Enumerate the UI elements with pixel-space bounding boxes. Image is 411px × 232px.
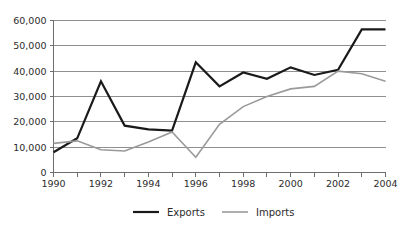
x-axis-label-1994: 1994 bbox=[136, 178, 160, 189]
x-axis-label-2004: 2004 bbox=[373, 178, 397, 189]
y-axis-label-20000: 20,000 bbox=[13, 116, 46, 127]
line-chart: 010,00020,00030,00040,00050,00060,000 19… bbox=[0, 0, 411, 232]
x-axis-label-1992: 1992 bbox=[89, 178, 113, 189]
y-axis-label-40000: 40,000 bbox=[13, 66, 46, 77]
x-axis-label-2000: 2000 bbox=[279, 178, 303, 189]
y-axis-label-60000: 60,000 bbox=[13, 15, 46, 26]
chart-canvas: 010,00020,00030,00040,00050,00060,000 19… bbox=[0, 0, 411, 232]
legend-label-exports: Exports bbox=[167, 207, 205, 218]
y-axis-label-0: 0 bbox=[40, 167, 46, 178]
x-axis-label-1996: 1996 bbox=[184, 178, 208, 189]
chart-background bbox=[0, 0, 411, 232]
y-axis-label-10000: 10,000 bbox=[13, 142, 46, 153]
x-axis-label-1990: 1990 bbox=[41, 178, 65, 189]
y-axis-label-30000: 30,000 bbox=[13, 91, 46, 102]
y-axis-label-50000: 50,000 bbox=[13, 40, 46, 51]
legend-label-imports: Imports bbox=[256, 207, 294, 218]
x-axis-label-1998: 1998 bbox=[231, 178, 255, 189]
x-axis-label-2002: 2002 bbox=[326, 178, 350, 189]
